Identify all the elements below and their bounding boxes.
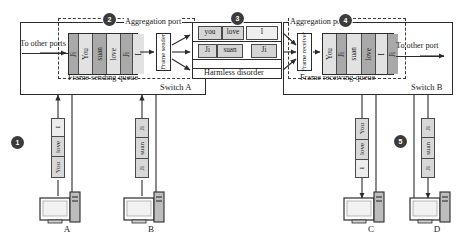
frame-cell: I: [52, 119, 64, 137]
queue-cell: Ji: [388, 34, 398, 74]
host-b-frame-stack: Ji suan Ji: [135, 118, 149, 178]
switch-a-label: Switch A: [160, 82, 191, 92]
queue-cell: I: [376, 34, 388, 74]
to-other-ports-label: To other ports: [20, 39, 66, 48]
disorder-token: Ji: [251, 44, 277, 58]
frame-cell: Ji: [422, 119, 434, 138]
disorder-token: love: [222, 26, 244, 40]
host-d-computer: [410, 192, 450, 223]
frame-cell: love: [52, 137, 64, 158]
frame-sender-box: Frame sender: [156, 33, 171, 71]
frame-cell: love: [356, 140, 368, 161]
host-d-frame-stack: Ji suan Ji: [421, 118, 435, 178]
harmless-disorder-box: you love I Ji suan Ji Harmless disorder: [192, 22, 282, 79]
frame-receiver-box: Frame receiver: [297, 33, 312, 71]
step-marker-2: 2: [103, 13, 116, 26]
frame-cell: suan: [136, 138, 148, 160]
host-d-name: D: [427, 224, 447, 234]
host-c-frame-stack: You love I: [355, 118, 369, 178]
host-a-name: A: [57, 224, 77, 234]
frame-cell: Ji: [136, 159, 148, 177]
queue-cell: Ji: [121, 34, 133, 74]
queue-cell: You: [79, 34, 93, 74]
queue-cell: Ji: [69, 34, 79, 74]
frame-cell: Ji: [422, 159, 434, 177]
disorder-divider: [193, 59, 281, 60]
queue-cell: love: [362, 34, 376, 74]
to-other-port-label: To other port: [396, 41, 439, 50]
queue-cell: You: [323, 34, 337, 74]
frame-sending-queue-cells: Ji You suan love Ji I: [68, 33, 138, 75]
frame-cell: Ji: [136, 119, 148, 138]
frame-cell: You: [356, 119, 368, 140]
host-a-frame-stack: I love You: [51, 118, 65, 178]
frame-receiving-queue-caption: Frame receiving queue: [300, 73, 375, 82]
queue-cell: love: [107, 34, 121, 74]
queue-cell: suan: [347, 34, 362, 74]
host-b-name: B: [141, 224, 161, 234]
frame-cell: You: [52, 157, 64, 177]
queue-cell: I: [133, 34, 144, 74]
host-a-computer: [40, 192, 80, 223]
disorder-divider: [193, 41, 281, 42]
switch-b-label: Switch B: [411, 82, 442, 92]
frame-sending-queue-caption: Frame sending queue: [68, 73, 138, 82]
frame-cell: I: [356, 160, 368, 177]
switch-a-aggregation-port-label: Aggregation port: [124, 17, 182, 26]
step-marker-1: 1: [11, 136, 24, 149]
harmless-disorder-caption: Harmless disorder: [204, 68, 264, 77]
step-marker-3: 3: [231, 12, 244, 25]
host-c-computer: [344, 192, 384, 223]
step-marker-4: 4: [339, 14, 352, 27]
frame-sending-queue: Ji You suan love Ji I: [68, 33, 138, 73]
switch-a-input-line: [22, 53, 68, 54]
disorder-token: Ji: [198, 44, 217, 58]
queue-cell: suan: [93, 34, 107, 74]
diagram-canvas: Switch A Aggregation port To other ports…: [0, 0, 460, 241]
host-b-computer: [124, 192, 164, 223]
disorder-token: I: [246, 26, 278, 40]
queue-cell: Ji: [337, 34, 347, 74]
frame-cell: suan: [422, 138, 434, 160]
disorder-token: you: [198, 26, 222, 40]
step-marker-5: 5: [394, 135, 407, 148]
frame-receiving-queue-cells: You Ji suan love I Ji: [322, 33, 394, 75]
host-c-name: C: [361, 224, 381, 234]
switch-b-output-line: [396, 56, 444, 57]
disorder-token: suan: [217, 44, 243, 58]
frame-receiving-queue: You Ji suan love I Ji: [322, 33, 394, 73]
